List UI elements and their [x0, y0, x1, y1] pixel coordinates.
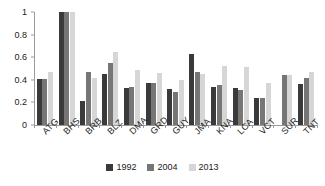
bar [298, 84, 303, 125]
bar-group [211, 12, 227, 125]
bar [102, 74, 107, 125]
bar [86, 72, 91, 125]
legend-swatch-icon [189, 164, 196, 171]
bar [217, 85, 222, 125]
bar-chart: 00.20.40.60.81 ATGBHSBRBBLZDMAGRDGUYJMAK… [0, 0, 325, 186]
legend-label: 2004 [157, 163, 177, 172]
bar-group [80, 12, 96, 125]
bar [59, 12, 64, 125]
bar [70, 12, 75, 125]
y-axis-tick-label: 0 [22, 121, 27, 130]
bar-group [254, 12, 270, 125]
bar-group [189, 12, 205, 125]
bar [129, 87, 134, 125]
bar-group [124, 12, 140, 125]
y-axis-tick-label: 0.4 [14, 75, 27, 84]
legend-label: 1992 [116, 163, 136, 172]
y-axis-tick-label: 0.6 [14, 53, 27, 62]
bar [238, 90, 243, 125]
legend-item: 2004 [147, 163, 177, 172]
plot-area [34, 12, 317, 125]
bar [113, 52, 118, 125]
bar [282, 75, 287, 125]
y-axis-tick-label: 0.8 [14, 30, 27, 39]
bar-group [298, 12, 314, 125]
bar [173, 92, 178, 125]
y-axis-tick-label: 1 [22, 8, 27, 17]
bar [124, 88, 129, 125]
y-axis-ticks: 00.20.40.60.81 [0, 0, 34, 126]
bar-group [276, 12, 292, 125]
bar-group [102, 12, 118, 125]
legend-item: 1992 [106, 163, 136, 172]
legend-label: 2013 [199, 163, 219, 172]
bar [304, 78, 309, 125]
bar-group [37, 12, 53, 125]
bar-group [167, 12, 183, 125]
x-axis-tick-mark [34, 125, 35, 128]
bar [151, 83, 156, 125]
legend-swatch-icon [147, 164, 154, 171]
bar-group [146, 12, 162, 125]
bar [211, 87, 216, 125]
bar [64, 12, 69, 125]
bar-group [233, 12, 249, 125]
y-axis-tick-label: 0.2 [14, 98, 27, 107]
bar [195, 72, 200, 125]
legend-swatch-icon [106, 164, 113, 171]
bar [189, 54, 194, 125]
bar [254, 98, 259, 125]
bar [108, 63, 113, 125]
bar [42, 79, 47, 125]
chart-legend: 199220042013 [0, 163, 325, 172]
legend-item: 2013 [189, 163, 219, 172]
bar [37, 79, 42, 125]
bar-group [59, 12, 75, 125]
bar [233, 88, 238, 125]
